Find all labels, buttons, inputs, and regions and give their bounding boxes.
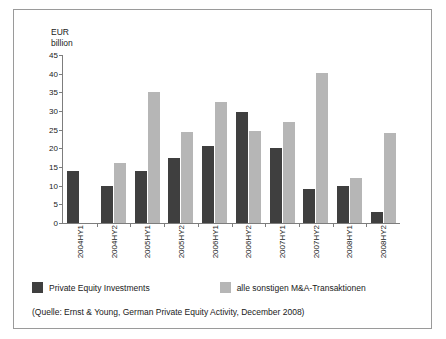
- x-label-cell: 2008HY1: [333, 225, 367, 283]
- x-label-cell: 2008HY2: [366, 225, 400, 283]
- y-tick-label: 35: [36, 88, 58, 97]
- bar-private-equity: [303, 189, 315, 223]
- x-label-cell: 2007HY2: [299, 225, 333, 283]
- bar-groups: [63, 55, 400, 223]
- bar-other-ma: [215, 102, 227, 223]
- source-note: (Quelle: Ernst & Young, German Private E…: [32, 307, 304, 317]
- bar-private-equity: [101, 186, 113, 223]
- bar-private-equity: [270, 148, 282, 223]
- x-label-cell: 2007HY1: [265, 225, 299, 283]
- chart-legend: Private Equity Investments alle sonstige…: [32, 282, 422, 293]
- y-tick-label: 15: [36, 163, 58, 172]
- x-tick-label: 2007HY1: [278, 225, 287, 258]
- bar-group: [265, 55, 299, 223]
- bar-private-equity: [236, 112, 248, 223]
- bar-group: [97, 55, 131, 223]
- bar-group: [198, 55, 232, 223]
- bar-group: [299, 55, 333, 223]
- chart-figure: EUR billion 454035302520151050 2004HY120…: [13, 9, 432, 329]
- bar-group: [366, 55, 400, 223]
- x-label-cell: 2006HY2: [232, 225, 266, 283]
- y-tick-mark: [59, 223, 63, 224]
- bar-private-equity: [67, 171, 79, 223]
- y-tick-label: 5: [36, 200, 58, 209]
- x-label-cell: 2005HY2: [164, 225, 198, 283]
- legend-label-dark: Private Equity Investments: [49, 283, 150, 293]
- x-tick-label: 2008HY1: [345, 225, 354, 258]
- bar-private-equity: [168, 158, 180, 223]
- x-tick-label: 2005HY1: [143, 225, 152, 258]
- x-tick-label: 2005HY2: [176, 225, 185, 258]
- bar-group: [232, 55, 266, 223]
- y-tick-label: 30: [36, 107, 58, 116]
- x-label-cell: 2004HY2: [97, 225, 131, 283]
- plot-area: 454035302520151050: [62, 55, 400, 223]
- bar-other-ma: [148, 92, 160, 223]
- y-tick-label: 25: [36, 125, 58, 134]
- y-tick-label: 0: [36, 219, 58, 228]
- legend-item-other-ma: alle sonstigen M&A-Transaktionen: [220, 282, 366, 293]
- legend-label-light: alle sonstigen M&A-Transaktionen: [237, 283, 366, 293]
- bar-other-ma: [181, 132, 193, 223]
- bar-other-ma: [384, 133, 396, 223]
- bar-group: [333, 55, 367, 223]
- bar-private-equity: [135, 171, 147, 223]
- x-tick-label: 2008HY2: [379, 225, 388, 258]
- x-tick-label: 2006HY2: [244, 225, 253, 258]
- x-label-cell: 2005HY1: [130, 225, 164, 283]
- bar-private-equity: [202, 146, 214, 223]
- bar-other-ma: [114, 163, 126, 223]
- x-tick-label: 2004HY2: [109, 225, 118, 258]
- legend-swatch-light: [220, 282, 231, 293]
- legend-item-private-equity: Private Equity Investments: [32, 282, 150, 293]
- y-tick-label: 45: [36, 51, 58, 60]
- bar-other-ma: [249, 131, 261, 223]
- bar-group: [63, 55, 97, 223]
- bar-private-equity: [337, 186, 349, 223]
- bar-other-ma: [316, 73, 328, 223]
- y-tick-label: 20: [36, 144, 58, 153]
- x-label-cell: 2004HY1: [63, 225, 97, 283]
- y-axis-unit-label: EUR billion: [51, 27, 73, 49]
- bar-private-equity: [371, 212, 383, 223]
- bar-group: [130, 55, 164, 223]
- y-tick-label: 10: [36, 181, 58, 190]
- y-tick-label: 40: [36, 69, 58, 78]
- legend-swatch-dark: [32, 282, 43, 293]
- x-tick-label: 2006HY1: [210, 225, 219, 258]
- bar-group: [164, 55, 198, 223]
- bar-other-ma: [283, 122, 295, 223]
- x-tick-label: 2007HY2: [311, 225, 320, 258]
- bar-other-ma: [350, 178, 362, 223]
- x-tick-label: 2004HY1: [75, 225, 84, 258]
- x-axis-labels: 2004HY12004HY22005HY12005HY22006HY12006H…: [63, 225, 400, 283]
- x-label-cell: 2006HY1: [198, 225, 232, 283]
